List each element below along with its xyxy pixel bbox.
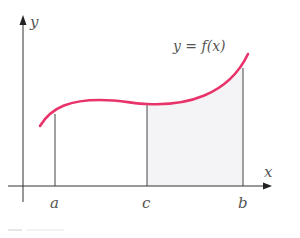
x-axis-arrow-icon [263,183,272,190]
y-axis-label: y [29,13,39,31]
x-axis-label: x [264,163,273,181]
function-label: y = f(x) [172,38,226,54]
function-diagram: y x y = f(x) a c b [0,0,300,238]
tick-label-b: b [238,194,248,212]
tick-label-c: c [142,194,151,212]
figure-caption-mark [8,229,22,231]
figure-caption-mark-2 [26,229,64,231]
tick-label-a: a [50,194,59,212]
shaded-region-c-to-b [147,66,243,186]
y-axis-arrow-icon [20,15,27,25]
